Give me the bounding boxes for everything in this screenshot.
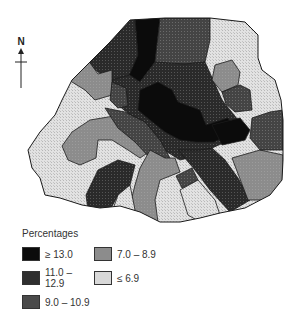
north-arrow-icon [14,48,28,96]
legend-item-13-plus: ≥ 13.0 [22,247,94,261]
swatch-light-gray [94,271,112,285]
legend-item-11-12.9: 11.0 – 12.9 [22,267,94,289]
swatch-medium-gray [94,247,112,261]
legend-item-7-8.9: 7.0 – 8.9 [94,247,164,261]
north-label: N [14,36,28,47]
legend-item-9-10.9: 9.0 – 10.9 [22,295,94,309]
legend-label: 11.0 – 12.9 [45,267,94,289]
legend-label: ≥ 13.0 [45,249,73,260]
swatch-dark-gray [22,271,40,285]
legend-label: 7.0 – 8.9 [117,249,156,260]
north-arrow: N [14,36,34,86]
swatch-black [22,247,40,261]
legend-label: ≤ 6.9 [117,273,139,284]
legend-title: Percentages [22,228,164,239]
legend-item-6.9-less: ≤ 6.9 [94,267,164,289]
swatch-charcoal [22,295,40,309]
legend-label: 9.0 – 10.9 [45,297,89,308]
district-ne-inner [155,18,210,66]
legend: Percentages ≥ 13.0 7.0 – 8.9 11.0 – 12.9… [22,228,164,309]
